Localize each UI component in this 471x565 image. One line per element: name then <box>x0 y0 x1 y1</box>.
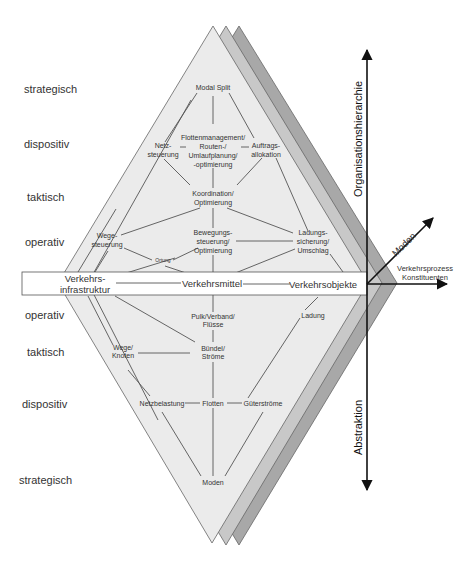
level-dispositiv-lower: dispositiv <box>22 398 68 410</box>
axis-label-verkehrsprozess: Verkehrsprozess Konstituenten <box>397 264 453 282</box>
node-ortung: Ortung <box>155 257 171 263</box>
band-verkehrsmittel: Verkehrsmittel <box>182 278 242 289</box>
node-koordination: Koordination/ Optimierung <box>192 190 233 207</box>
node-netzbelastung: Netzbelastung <box>140 400 185 408</box>
node-ladungssicherung: Ladungs- sicherung/ Umschlag <box>297 229 329 255</box>
svg-text:Optimierung: Optimierung <box>194 247 232 255</box>
svg-text:Ladungs-: Ladungs- <box>298 229 328 237</box>
node-flotten: Flotten <box>202 400 224 407</box>
svg-text:steuerung: steuerung <box>147 151 178 159</box>
svg-text:-optimierung: -optimierung <box>194 161 233 169</box>
svg-text:Wege/: Wege/ <box>113 344 133 352</box>
level-operativ-lower: operativ <box>25 309 65 321</box>
node-moden: Moden <box>202 479 224 486</box>
svg-text:Wege-: Wege- <box>97 232 118 240</box>
level-taktisch-lower: taktisch <box>27 346 64 358</box>
node-modal-split: Modal Split <box>196 84 231 92</box>
svg-text:Flüsse: Flüsse <box>203 321 224 328</box>
svg-text:Verkehrs-: Verkehrs- <box>65 273 106 284</box>
level-taktisch-upper: taktisch <box>27 191 64 203</box>
svg-text:Routen-/: Routen-/ <box>200 143 227 150</box>
svg-text:steuerung: steuerung <box>91 241 122 249</box>
level-strategisch-lower: strategisch <box>19 474 72 486</box>
band-verkehrsinfrastruktur: Verkehrs- infrastruktur <box>60 273 110 295</box>
node-wege-knoten: Wege/ Knoten <box>112 344 134 359</box>
svg-text:Konstituenten: Konstituenten <box>402 273 448 282</box>
svg-text:Optimierung: Optimierung <box>194 199 232 207</box>
svg-text:steuerung/: steuerung/ <box>196 238 229 246</box>
svg-text:Umschlag: Umschlag <box>297 247 328 255</box>
svg-text:infrastruktur: infrastruktur <box>60 284 110 295</box>
svg-text:Auftrags-: Auftrags- <box>252 142 281 150</box>
band-verkehrsobjekte: Verkehrsobjekte <box>289 279 357 290</box>
node-ladung: Ladung <box>301 312 324 320</box>
svg-text:allokation: allokation <box>251 151 281 158</box>
axis-label-abstraktion: Abstraktion <box>352 400 364 455</box>
node-buendel-stroeme: Bündel/ Ströme <box>201 345 225 360</box>
axis-label-organisationshierarchie: Organisationshierarchie <box>352 81 364 197</box>
level-operativ-upper: operativ <box>25 236 65 248</box>
svg-text:Bündel/: Bündel/ <box>201 345 225 352</box>
svg-text:sicherung/: sicherung/ <box>297 238 329 246</box>
svg-text:Knoten: Knoten <box>112 352 134 359</box>
axis-label-moden: Moden <box>390 230 418 258</box>
svg-text:Flottenmanagement/: Flottenmanagement/ <box>181 134 245 142</box>
node-gueterstroeme: Güterströme <box>244 400 283 407</box>
level-strategisch-upper: strategisch <box>24 83 77 95</box>
svg-text:Bewegungs-: Bewegungs- <box>194 229 234 237</box>
level-dispositiv-upper: dispositiv <box>24 138 70 150</box>
svg-text:Verkehrsprozess: Verkehrsprozess <box>397 264 453 273</box>
svg-text:Netz-: Netz- <box>155 142 172 149</box>
svg-text:Pulk/Verband/: Pulk/Verband/ <box>191 313 235 320</box>
node-bewegungssteuerung: Bewegungs- steuerung/ Optimierung <box>194 229 234 255</box>
diagram-canvas: strategisch dispositiv taktisch operativ… <box>0 0 471 565</box>
svg-text:Ströme: Ströme <box>202 353 225 360</box>
svg-text:Koordination/: Koordination/ <box>192 190 233 197</box>
svg-text:Umlaufplanung/: Umlaufplanung/ <box>188 152 237 160</box>
